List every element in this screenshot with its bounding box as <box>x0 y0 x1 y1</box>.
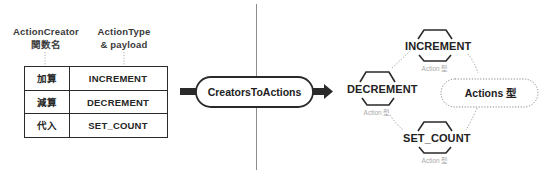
relation-arc-bottom-left <box>390 115 403 130</box>
set-count-bracket-bottom <box>419 147 451 153</box>
node-decrement-label: DECREMENT <box>347 83 409 95</box>
creator-name-cell: 代入 <box>25 114 70 138</box>
relation-arc-bottom-right <box>466 108 477 130</box>
output-arrow-bar <box>313 88 325 95</box>
node-increment-label: INCREMENT <box>405 40 465 52</box>
node-set-count-label: SET_COUNT <box>403 132 467 144</box>
creator-name-cell: 減算 <box>25 91 70 115</box>
decrement-bracket-bottom <box>362 98 394 105</box>
input-arrow-bar <box>180 88 197 95</box>
node-set-count-sub: Action 型 <box>415 155 455 165</box>
relation-arc-top-right <box>468 54 478 73</box>
relation-arc-top-left <box>392 50 411 68</box>
action-type-cell: INCREMENT <box>70 67 166 91</box>
action-type-cell: SET_COUNT <box>70 114 166 138</box>
node-decrement-sub: Action 型 <box>357 107 397 117</box>
creator-name-cell: 加算 <box>25 67 70 91</box>
header-action-type-line2: & payload <box>84 38 164 51</box>
node-increment-sub: Action 型 <box>415 63 455 73</box>
transform-pill-label: CreatorsToActions <box>196 77 313 107</box>
header-action-creator: ActionCreator 関数名 <box>0 25 92 51</box>
action-type-cell: DECREMENT <box>70 91 166 115</box>
table-row: 加算 INCREMENT <box>25 67 167 91</box>
header-action-type: ActionType & payload <box>84 25 164 51</box>
header-action-type-line1: ActionType <box>84 25 164 38</box>
table-row: 減算 DECREMENT <box>25 91 167 115</box>
header-action-creator-line1: ActionCreator <box>0 25 92 38</box>
union-bubble-label: Actions 型 <box>443 81 538 105</box>
output-arrow-head <box>324 84 333 99</box>
increment-bracket-bottom <box>419 55 451 61</box>
decrement-bracket-top <box>360 72 395 82</box>
set-count-bracket-top <box>418 122 452 131</box>
header-action-creator-line2: 関数名 <box>0 38 92 51</box>
table-row: 代入 SET_COUNT <box>25 114 167 138</box>
increment-bracket-top <box>418 30 452 39</box>
creator-mapping-table: 加算 INCREMENT 減算 DECREMENT 代入 SET_COUNT <box>24 66 168 138</box>
